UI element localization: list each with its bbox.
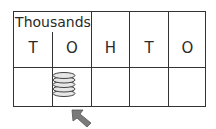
column-label-ones: O [169, 39, 206, 57]
counter-stack-icon [51, 68, 77, 98]
column-label-thousands-tens: T [14, 39, 52, 57]
column-label-tens: T [130, 39, 168, 57]
pointer-arrow-icon [70, 108, 94, 129]
divider-hundreds-tens [129, 11, 130, 107]
column-label-hundreds: H [92, 39, 129, 57]
header-row-divider [13, 67, 206, 68]
place-value-table: Thousands T O H T O [13, 11, 206, 107]
divider-tens-ones [168, 11, 169, 107]
thousands-group-label: Thousands [14, 14, 92, 31]
column-label-thousands-ones: O [53, 39, 91, 57]
